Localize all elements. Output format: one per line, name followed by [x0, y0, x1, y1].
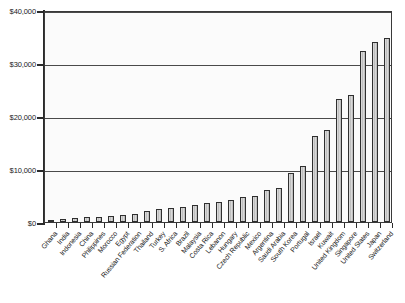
y-tick-label-40000: $40,000 [10, 7, 36, 16]
bar [84, 217, 90, 222]
bar [96, 217, 102, 222]
x-tick [188, 223, 189, 228]
x-tick [356, 223, 357, 228]
bar [336, 99, 342, 222]
bar [168, 208, 174, 222]
bar [264, 190, 270, 222]
bar-series [45, 12, 391, 222]
bar [312, 136, 318, 222]
x-tick [224, 223, 225, 228]
bar [108, 216, 114, 222]
bar [72, 218, 78, 222]
x-tick [176, 223, 177, 228]
bar [348, 95, 354, 222]
bar [60, 219, 66, 222]
x-tick [368, 223, 369, 228]
x-tick [392, 223, 393, 228]
bar-chart: $0$10,000$20,000$30,000$40,000 GhanaIndi… [0, 0, 405, 303]
x-tick [140, 223, 141, 228]
y-tick-20000 [37, 117, 43, 119]
y-tick-label-20000: $20,000 [10, 113, 36, 122]
bar [240, 197, 246, 222]
y-tick-label-10000: $10,000 [10, 166, 36, 175]
plot-area [44, 11, 392, 223]
x-tick [152, 223, 153, 228]
x-tick [284, 223, 285, 228]
x-tick [320, 223, 321, 228]
x-tick [164, 223, 165, 228]
y-tick-30000 [37, 64, 43, 66]
y-tick-label-0: $0 [28, 219, 36, 228]
x-tick [200, 223, 201, 228]
bar [384, 38, 390, 222]
bar [156, 209, 162, 222]
bar [120, 215, 126, 222]
bar [144, 211, 150, 222]
bar [180, 207, 186, 222]
bar [204, 203, 210, 222]
bar [288, 173, 294, 222]
x-tick [212, 223, 213, 228]
bar [252, 196, 258, 223]
x-tick [272, 223, 273, 228]
bar [216, 202, 222, 222]
x-tick [344, 223, 345, 228]
x-tick [56, 223, 57, 228]
bar [372, 42, 378, 222]
y-tick-10000 [37, 170, 43, 172]
bar [300, 166, 306, 222]
bar [228, 200, 234, 222]
x-tick [128, 223, 129, 228]
bar [132, 214, 138, 222]
x-tick [236, 223, 237, 228]
x-tick [380, 223, 381, 228]
x-tick [248, 223, 249, 228]
y-tick-40000 [37, 11, 43, 13]
x-tick [80, 223, 81, 228]
bar [324, 130, 330, 222]
x-tick [308, 223, 309, 228]
x-tick [116, 223, 117, 228]
bar [276, 188, 282, 222]
x-tick [332, 223, 333, 228]
bar [48, 220, 54, 222]
x-tick [260, 223, 261, 228]
y-tick-label-30000: $30,000 [10, 60, 36, 69]
x-tick [68, 223, 69, 228]
bar [192, 205, 198, 222]
bar [360, 51, 366, 222]
x-tick [296, 223, 297, 228]
x-tick [104, 223, 105, 228]
y-tick-0 [37, 223, 43, 225]
x-tick [92, 223, 93, 228]
